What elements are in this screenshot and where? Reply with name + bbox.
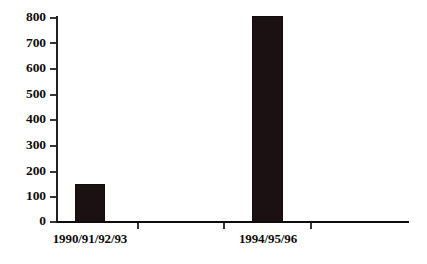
y-axis-tick [50, 68, 56, 70]
x-axis-tick [223, 223, 225, 229]
y-axis-tick [50, 221, 56, 223]
y-axis-label-0: 0 [39, 214, 46, 228]
x-axis-tick [137, 223, 139, 229]
y-axis-label-500: 500 [26, 87, 46, 101]
y-axis-label-400: 400 [26, 112, 46, 126]
bar-1990-91-92-93 [75, 184, 105, 222]
y-axis-label-200: 200 [26, 164, 46, 178]
y-axis-tick [50, 42, 56, 44]
y-axis-label-600: 600 [26, 61, 46, 75]
x-axis-tick [310, 223, 312, 229]
y-axis-tick [50, 171, 56, 173]
x-axis-label-1994-95-96: 1994/95/96 [217, 232, 319, 246]
y-axis-label-300: 300 [26, 138, 46, 152]
y-axis-line [56, 16, 58, 223]
y-axis-label-800: 800 [26, 10, 46, 24]
y-axis-label-700: 700 [26, 36, 46, 50]
y-axis-tick [50, 119, 56, 121]
y-axis-tick [50, 17, 56, 19]
x-axis-label-1990-91-92-93: 1990/91/92/93 [45, 232, 135, 246]
bar-1994-95-96 [252, 16, 283, 222]
x-axis-line [56, 221, 409, 223]
y-axis-tick [50, 196, 56, 198]
y-axis-tick [50, 94, 56, 96]
y-axis-label-100: 100 [26, 189, 46, 203]
bar-chart: 800 700 600 500 400 300 200 100 0 1990/9… [0, 0, 427, 264]
y-axis-tick [50, 145, 56, 147]
